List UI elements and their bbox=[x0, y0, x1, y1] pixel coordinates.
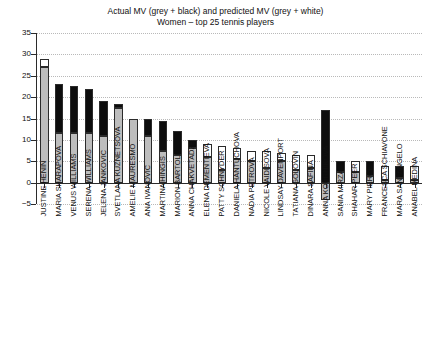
x-axis-labels: JUSTINE HENINMARIA SHARAPOVAVENUS WILLIA… bbox=[0, 0, 431, 345]
x-tick-label: JELENA JANKOVIC bbox=[99, 150, 106, 217]
x-tick-label: SHAHAR PEER bbox=[351, 163, 358, 216]
x-tick-label: JUSTINE HENIN bbox=[40, 161, 47, 217]
x-tick-label: SVETLANA KUZNETSOVA bbox=[114, 127, 121, 217]
x-tick-label: MARTINA HINGIS bbox=[158, 156, 165, 216]
x-tick-label: SANIA MIRZA bbox=[336, 170, 343, 217]
x-tick-label: ANABEL MEDINA bbox=[410, 157, 417, 217]
x-tick-label: ANNA KOURNIKOVA bbox=[321, 145, 328, 216]
x-tick-label: ANA IVANOVIC bbox=[144, 165, 151, 217]
x-tick-label: ANNA CHAKVETADZE bbox=[188, 140, 195, 216]
x-tick-label: VENUS WILLIAMS bbox=[70, 154, 77, 217]
x-tick-label: DINARA SAFINA bbox=[307, 160, 314, 216]
x-tick-label: AMELIE MAURESMO bbox=[129, 144, 136, 217]
x-tick-label: LINDSAY DAVENPORT bbox=[277, 138, 284, 216]
x-tick-label: MARION BARTOLI bbox=[173, 153, 180, 216]
x-tick-label: MARY PIERCE bbox=[366, 166, 373, 217]
x-tick-label: DANIELA HANTUCHOVA bbox=[232, 132, 239, 216]
x-tick-label: MARIA SHARAPOVA bbox=[55, 146, 62, 217]
chart-figure: Actual MV (grey + black) and predicted M… bbox=[0, 0, 431, 345]
x-tick-label: TATIANA GOLOVIN bbox=[292, 151, 299, 216]
x-tick-label: ELENA DEMENTIEVA bbox=[203, 143, 210, 216]
x-tick-label: SERENA WILLIAMS bbox=[84, 149, 91, 216]
x-tick-label: NADIA PETROVA bbox=[247, 157, 254, 216]
x-tick-label: PATTY SCHNYDER bbox=[218, 150, 225, 216]
x-tick-label: FRANCESCA SCHIAVONE bbox=[381, 126, 388, 216]
x-tick-label: MARA SANTANGELO bbox=[395, 143, 402, 216]
x-tick-label: NICOLE VAIDISOVA bbox=[262, 148, 269, 216]
